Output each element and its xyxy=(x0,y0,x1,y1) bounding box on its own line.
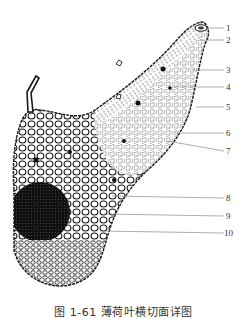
trichome xyxy=(27,76,39,112)
label-5: 5 xyxy=(226,103,231,112)
label-2: 2 xyxy=(226,36,231,45)
label-3: 3 xyxy=(226,66,231,75)
label-8: 8 xyxy=(226,194,231,203)
label-1: 1 xyxy=(226,24,231,33)
label-9: 9 xyxy=(226,212,231,221)
label-4: 4 xyxy=(226,83,231,92)
label-6: 6 xyxy=(226,129,231,138)
label-7: 7 xyxy=(226,147,231,156)
label-10: 10 xyxy=(224,229,233,238)
figure-caption: 图 1-61 薄荷叶横切面详图 xyxy=(0,303,247,319)
